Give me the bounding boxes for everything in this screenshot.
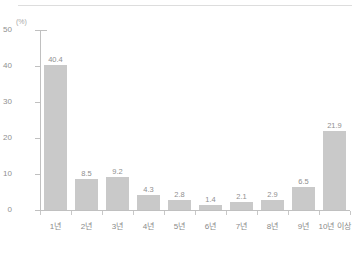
- bar-value-label: 40.4: [40, 55, 71, 64]
- bar-group: 2.8: [164, 29, 195, 210]
- x-axis-tick-mark: [319, 211, 320, 215]
- bar-value-label: 9.2: [102, 167, 133, 176]
- bar-group: 8.5: [71, 29, 102, 210]
- bar-value-label: 2.8: [164, 190, 195, 199]
- bar-value-label: 1.4: [195, 195, 226, 204]
- x-axis-tick-mark: [164, 211, 165, 215]
- bars-layer: 40.48.59.24.32.81.42.12.96.521.9: [40, 0, 350, 255]
- bar: [230, 202, 253, 210]
- bar-group: 2.9: [257, 29, 288, 210]
- x-axis-tick-mark: [71, 211, 72, 215]
- bar-value-label: 4.3: [133, 185, 164, 194]
- x-axis-tick-mark: [40, 211, 41, 215]
- bar-value-label: 8.5: [71, 169, 102, 178]
- bar-group: 1.4: [195, 29, 226, 210]
- bar: [44, 65, 67, 210]
- x-axis-tick-mark: [288, 211, 289, 215]
- bar-value-label: 21.9: [319, 121, 350, 130]
- bar-group: 40.4: [40, 29, 71, 210]
- x-axis-tick-mark: [350, 211, 351, 215]
- y-axis-tick-label: 10: [3, 169, 12, 178]
- bar-group: 21.9: [319, 29, 350, 210]
- bar: [106, 177, 129, 210]
- bar-chart-figure: (%) 50403020100 40.48.59.24.32.81.42.12.…: [0, 0, 364, 255]
- bar-group: 4.3: [133, 29, 164, 210]
- x-axis-tick-mark: [102, 211, 103, 215]
- bar-group: 2.1: [226, 29, 257, 210]
- bar-value-label: 6.5: [288, 177, 319, 186]
- bar-group: 6.5: [288, 29, 319, 210]
- bar: [323, 131, 346, 210]
- y-axis-tick-label: 30: [3, 97, 12, 106]
- bar: [199, 205, 222, 210]
- x-axis-tick-mark: [133, 211, 134, 215]
- x-axis-category-label: 10년 이상: [313, 222, 357, 232]
- bar-value-label: 2.9: [257, 190, 288, 199]
- y-axis-tick-label: 40: [3, 61, 12, 70]
- bar-value-label: 2.1: [226, 192, 257, 201]
- x-axis-tick-mark: [257, 211, 258, 215]
- y-axis-tick-label: 0: [8, 205, 12, 214]
- x-axis-tick-mark: [226, 211, 227, 215]
- x-axis-tick-mark: [195, 211, 196, 215]
- bar: [75, 179, 98, 210]
- bar: [137, 195, 160, 210]
- bar: [168, 200, 191, 210]
- y-axis-tick-label: 20: [3, 133, 12, 142]
- bar: [261, 200, 284, 210]
- bar-group: 9.2: [102, 29, 133, 210]
- bar: [292, 187, 315, 210]
- plot-area: 50403020100 40.48.59.24.32.81.42.12.96.5…: [0, 0, 364, 255]
- y-axis-tick-label: 50: [3, 25, 12, 34]
